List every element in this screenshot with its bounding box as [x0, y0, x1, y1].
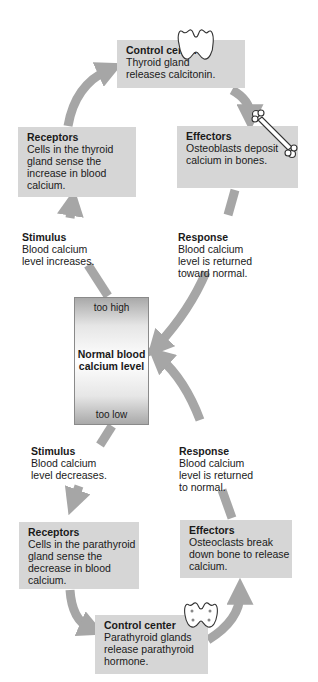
stimulus-body-lower: Blood calcium level decreases. — [31, 457, 107, 481]
effectors-box-lower: Effectors Osteoclasts break down bone to… — [180, 520, 292, 578]
receptors-title-lower: Receptors — [28, 526, 139, 538]
normal-level-label: Normal blood calcium level — [75, 348, 148, 372]
receptors-body-lower: Cells in the parathyroid gland sense the… — [28, 538, 139, 586]
arrow-stimulus-to-receptors-lower — [74, 486, 79, 500]
arrow-effectors-to-response-lower — [222, 490, 232, 518]
stimulus-title-lower: Stimulus — [31, 445, 107, 457]
arrow-stimulus-to-receptors-upper — [70, 205, 72, 218]
effectors-title-lower: Effectors — [189, 524, 292, 536]
arrow-center-to-stimulus-upper — [88, 265, 108, 296]
response-body-upper: Blood calcium level is returned toward n… — [178, 243, 252, 279]
arrow-response-to-center-upper — [158, 272, 206, 345]
receptors-body-upper: Cells in the thyroid gland sense the inc… — [27, 143, 136, 191]
normal-calcium-level-box: too high Normal blood calcium level too … — [74, 297, 149, 425]
arrow-receptors-to-control-lower — [70, 590, 90, 628]
arrow-response-to-center-lower — [160, 358, 200, 420]
response-title-lower: Response — [179, 445, 253, 457]
arrow-center-to-stimulus-lower — [100, 426, 112, 445]
stimulus-label-lower: Stimulus Blood calcium level decreases. — [31, 445, 107, 481]
too-high-label: too high — [75, 302, 148, 313]
response-label-lower: Response Blood calcium level is returned… — [179, 445, 253, 493]
parathyroid-glands-icon — [184, 600, 218, 630]
arrow-effectors-to-response-upper — [228, 190, 235, 215]
receptors-box-upper: Receptors Cells in the thyroid gland sen… — [18, 127, 136, 197]
too-low-label: too low — [75, 409, 148, 420]
response-title-upper: Response — [178, 231, 252, 243]
arrow-receptors-to-control-upper — [68, 70, 108, 126]
thyroid-gland-icon — [177, 26, 215, 62]
bone-icon — [248, 108, 300, 160]
response-body-lower: Blood calcium level is returned to norma… — [179, 457, 253, 493]
receptors-box-lower: Receptors Cells in the parathyroid gland… — [19, 522, 139, 589]
effectors-body-lower: Osteoclasts break down bone to release c… — [189, 536, 292, 572]
stimulus-title-upper: Stimulus — [22, 231, 94, 243]
stimulus-body-upper: Blood calcium level increases. — [22, 243, 94, 267]
control-center-body-lower: Parathyroid glands release parathyroid h… — [104, 631, 208, 667]
stimulus-label-upper: Stimulus Blood calcium level increases. — [22, 231, 94, 267]
receptors-title-upper: Receptors — [27, 131, 136, 143]
response-label-upper: Response Blood calcium level is returned… — [178, 231, 252, 279]
